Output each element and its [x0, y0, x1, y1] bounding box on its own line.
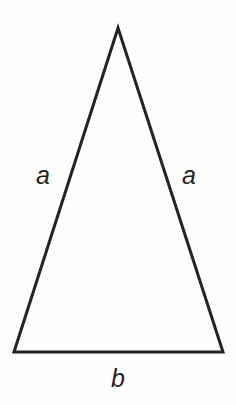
triangle-outline [14, 28, 223, 352]
label-side-b-base: b [111, 366, 125, 391]
label-side-a-right: a [182, 163, 196, 188]
triangle-figure: a a b [0, 0, 236, 405]
label-side-a-left: a [36, 163, 50, 188]
triangle-shape [0, 0, 236, 405]
